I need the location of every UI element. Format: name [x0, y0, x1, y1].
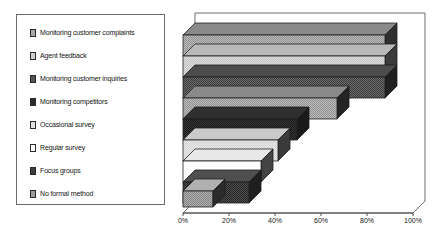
legend-swatch-icon	[30, 190, 36, 198]
legend-item-label: Focus groups	[40, 167, 81, 174]
legend-item[interactable]: Regular survey	[17, 136, 164, 159]
legend-item-label: Monitoring customer complaints	[40, 29, 134, 36]
x-tick-label: 100%	[404, 217, 422, 224]
legend-item-label: Monitoring competitors	[40, 98, 108, 105]
legend-item-label: Regular survey	[40, 144, 85, 151]
legend-item[interactable]: Monitoring customer inquiries	[17, 67, 164, 90]
legend-item-label: Occasional survey	[40, 121, 95, 128]
x-tick-label: 60%	[314, 217, 328, 224]
chart-legend: Monitoring customer complaints Agent fee…	[16, 14, 165, 205]
legend-swatch-icon	[30, 167, 36, 175]
legend-item[interactable]: Focus groups	[17, 159, 164, 182]
legend-item[interactable]: Monitoring competitors	[17, 90, 164, 113]
legend-swatch-icon	[30, 75, 36, 83]
x-tick-label: 40%	[268, 217, 282, 224]
x-tick-label: 0%	[178, 217, 188, 224]
legend-item-label: No formal method	[40, 190, 93, 197]
x-tick-label: 20%	[222, 217, 236, 224]
chart-svg: 0% 20% 40% 60% 80% 100%	[175, 5, 437, 225]
x-axis	[183, 213, 413, 216]
legend-swatch-icon	[30, 52, 36, 60]
legend-swatch-icon	[30, 98, 36, 106]
legend-item[interactable]: Agent feedback	[17, 44, 164, 67]
chart-figure: Monitoring customer complaints Agent fee…	[0, 0, 442, 229]
legend-item[interactable]: No formal method	[17, 182, 164, 205]
legend-item[interactable]: Occasional survey	[17, 113, 164, 136]
legend-swatch-icon	[30, 29, 36, 37]
legend-item[interactable]: Monitoring customer complaints	[17, 21, 164, 44]
chart-plot-area: 0% 20% 40% 60% 80% 100%	[175, 5, 437, 225]
legend-swatch-icon	[30, 144, 36, 152]
legend-item-label: Agent feedback	[40, 52, 87, 59]
legend-swatch-icon	[30, 121, 36, 129]
x-tick-label: 80%	[360, 217, 374, 224]
legend-item-label: Monitoring customer inquiries	[40, 75, 127, 82]
